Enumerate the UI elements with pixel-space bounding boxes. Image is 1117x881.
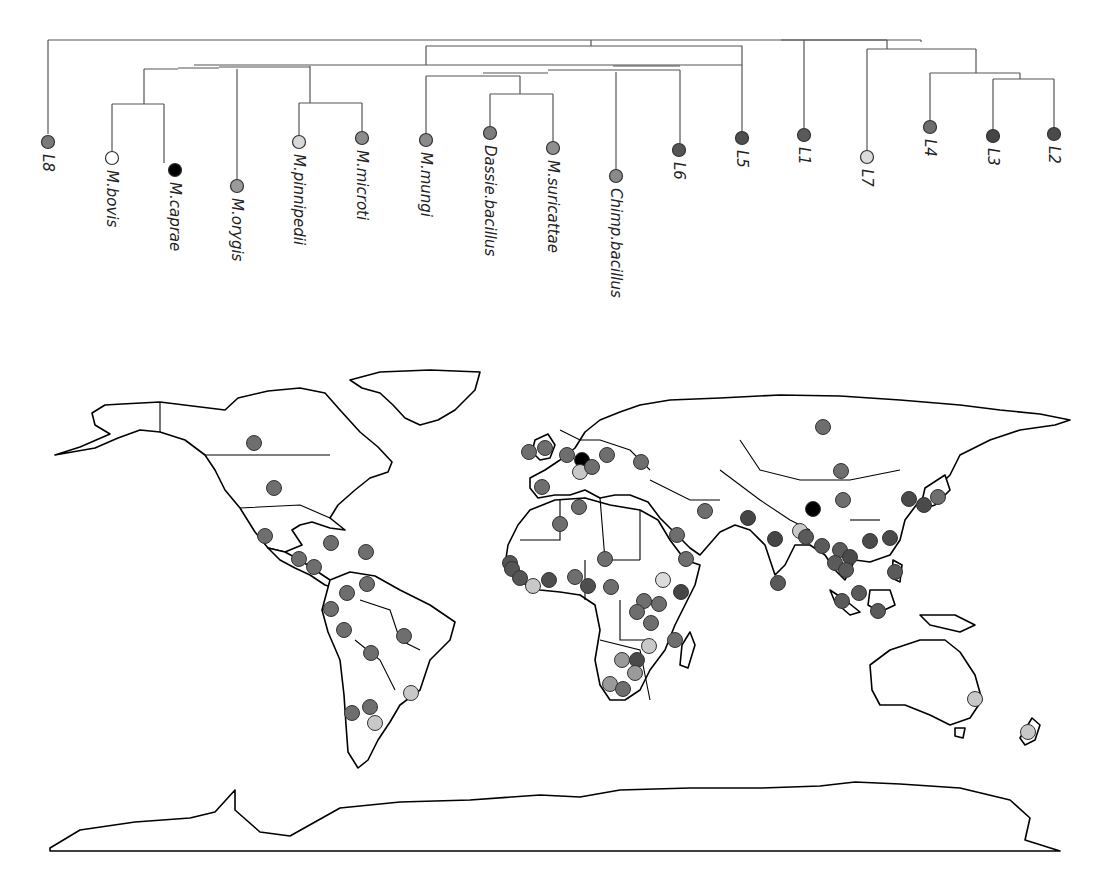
greenland [350,370,480,425]
map-point-china-w [806,502,821,517]
leaf-label: Dassie.bacillus [481,145,499,257]
map-point-bolivia [364,646,379,661]
map-point-guinea [513,571,528,586]
map-point-myanmar [815,539,830,554]
map-point-honduras [307,560,322,575]
map-point-peru [337,623,352,638]
map-point-uruguay-s-brazil [404,686,419,701]
leaf-label: L3 [984,148,1002,166]
tip-marker-l3 [987,130,1000,143]
map-point-mozambique-n [668,633,683,648]
tip-marker-m-caprae [169,164,182,177]
leaf-label: Chimp.bacillus [607,188,625,298]
map-point-poland [600,448,615,463]
map-point-zimbabwe [630,653,645,668]
tasmania [955,728,965,738]
tip-marker-m-suricattae [547,142,560,155]
south-america [322,572,455,768]
tip-marker-l7 [861,151,874,164]
map-point-yemen [679,552,694,567]
map-point-mongolia [834,464,849,479]
leaf-label: L4 [921,139,939,157]
map-point-canada [247,436,262,451]
tip-marker-m-microti [356,132,369,145]
map-point-malaysia [852,586,867,601]
tip-marker-l8 [42,136,55,149]
tip-marker-l2 [1048,128,1061,141]
leaf-label: M.caprae [166,182,184,251]
map-point-ghana [542,573,557,588]
map-point-sierra-leone [526,579,541,594]
leaf-label: L8 [39,154,57,172]
leaf-label: L7 [858,169,876,187]
map-point-japan [931,490,946,505]
map-point-france-n [560,448,575,463]
map-point-japan-s [917,498,932,513]
tip-marker-m-pinnipedii [293,136,306,149]
map-point-chile [345,706,360,721]
leaf-label: M.pinnipedii [290,154,308,246]
map-point-austria [585,460,600,475]
leaf-label: M.suricattae [544,160,562,253]
map-point-south-africa [616,682,631,697]
leaf-label: L6 [670,162,688,180]
leaf-label: L2 [1045,146,1063,164]
map-point-dominican-rep- [359,545,374,560]
map-point-bangladesh [799,530,814,545]
map-point-indonesia-w [835,594,850,609]
tip-marker-m-mungi [420,134,433,147]
map-point-spain [535,480,550,495]
map-point-sri-lanka [771,576,786,591]
map-point-ethiopia [656,573,671,588]
map-point-usa [267,481,282,496]
map-point-argentina [363,700,378,715]
map-point-drc-e [630,605,645,620]
map-point-new-zealand [1021,725,1036,740]
map-point-iran [698,504,713,519]
world-map [0,350,1117,881]
map-point-saudi-arabia [670,528,685,543]
map-point-ukraine [634,455,649,470]
leaf-label: L5 [733,150,751,168]
leaf-label: M.microti [353,150,371,221]
tip-marker-l1 [798,129,811,142]
map-point-colombia [340,586,355,601]
tip-marker-l4 [924,121,937,134]
map-point-cuba [324,536,339,551]
tree-labels: L8M.bovisM.capraeM.orygisM.pinnipediiM.m… [39,139,1063,298]
map-point-russia [816,420,831,435]
map-point-australia [968,692,983,707]
tree-branches [48,40,1054,180]
leaf-label: M.bovis [103,170,121,227]
map-point-pakistan [741,511,756,526]
map-point-china [836,493,851,508]
map-point-korea [902,492,917,507]
continents [50,370,1070,851]
map-point-zambia [615,653,630,668]
map-point-malawi [642,639,657,654]
map-point-guatemala [292,552,307,567]
map-point-taiwan [883,531,898,546]
map-point-indonesia [871,604,886,619]
leaf-label: M.orygis [228,198,246,262]
map-point-philippines [888,565,903,580]
map-point-botswana [628,666,643,681]
tip-marker-m-orygis [231,180,244,193]
antarctica [50,782,1060,851]
map-point-venezuela [360,577,375,592]
map-point-niger [598,552,613,567]
map-point-tunisia [572,500,587,515]
tip-marker-l6 [673,144,686,157]
map-point-cameroon [581,579,596,594]
new-guinea [920,615,975,632]
map-point-uk [538,441,553,456]
map-point-kenya [652,597,667,612]
map-point-ecuador [324,602,339,617]
map-point-brazil [397,629,412,644]
map-point-s-china [863,534,878,549]
map-point-argentina-s [368,716,383,731]
leaf-label: M.mungi [417,152,435,218]
map-point-nigeria [568,570,583,585]
tip-marker-dassie-bacillus [484,127,497,140]
phylogenetic-tree: L8M.bovisM.capraeM.orygisM.pinnipediiM.m… [0,0,1117,330]
